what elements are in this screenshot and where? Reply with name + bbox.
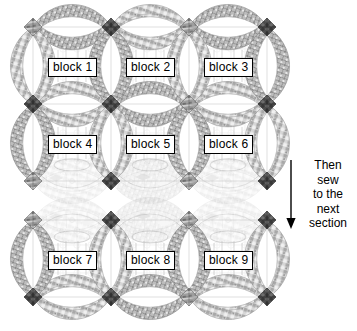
upper-section [10,4,289,203]
instruction-line-1: Then [300,158,356,173]
block-label-1[interactable]: block 1 [48,58,97,77]
block-label-9[interactable]: block 9 [204,251,253,270]
down-arrow-icon [286,160,295,229]
block-label-5[interactable]: block 5 [126,135,175,154]
block-label-6[interactable]: block 6 [204,135,253,154]
instruction-line-2: sew [300,173,356,188]
instruction-line-5: section [300,216,356,231]
block-label-4[interactable]: block 4 [48,135,97,154]
sew-instruction-text: Then sew to the next section [300,158,356,231]
block-label-8[interactable]: block 8 [126,251,175,270]
block-label-3[interactable]: block 3 [204,58,253,77]
instruction-line-4: next [300,202,356,217]
block-label-2[interactable]: block 2 [126,58,175,77]
instruction-line-3: to the [300,187,356,202]
quilt-diagram: block 1 block 2 block 3 block 4 block 5 … [0,0,357,331]
block-label-7[interactable]: block 7 [48,251,97,270]
